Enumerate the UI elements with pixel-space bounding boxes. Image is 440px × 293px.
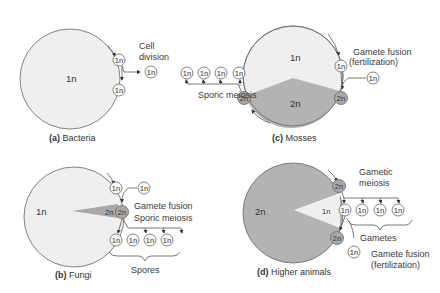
svg-text:2n: 2n [105, 208, 113, 217]
panel-bacteria: 1n 1n 1n 1n Cell division (a) Bacteria [20, 29, 169, 143]
gametes-label: Gametes [360, 233, 397, 243]
svg-text:1n: 1n [200, 69, 208, 78]
panel-higher-animals: 2n 1n 2n 1n 1n 1n 1n 2n 1n Gametes Gamet… [243, 163, 430, 277]
svg-text:1n: 1n [112, 184, 120, 193]
svg-text:1n: 1n [341, 206, 349, 215]
svg-text:1n: 1n [147, 68, 155, 77]
svg-text:1n: 1n [337, 62, 345, 71]
svg-text:1n: 1n [322, 207, 330, 216]
svg-text:1n: 1n [115, 56, 123, 65]
sporic-meiosis-label: Sporic meiosis [134, 213, 193, 223]
panel-fungi: 1n 2n 1n 1n 2n 1n 1n 1n 1n Spores Gamete… [24, 167, 193, 280]
svg-text:(fertilization): (fertilization) [349, 57, 398, 67]
svg-text:2n: 2n [118, 208, 126, 217]
svg-text:division: division [139, 52, 169, 62]
svg-text:1n: 1n [358, 206, 366, 215]
gamete-fusion-label: Gamete fusion [371, 249, 430, 259]
svg-text:1n: 1n [115, 86, 123, 95]
svg-text:1n: 1n [376, 206, 384, 215]
spores-brace [109, 252, 180, 261]
svg-text:1n: 1n [235, 69, 243, 78]
cell-division-label: Cell [139, 41, 155, 51]
caption-bacteria: (a) Bacteria [49, 133, 96, 143]
spores-label: Spores [131, 265, 160, 275]
svg-text:1n: 1n [129, 236, 137, 245]
svg-text:(fertilization): (fertilization) [371, 260, 420, 270]
svg-text:1n: 1n [217, 69, 225, 78]
svg-text:1n: 1n [290, 52, 301, 63]
gametes-brace [348, 220, 412, 230]
svg-text:1n: 1n [394, 206, 402, 215]
svg-text:2n: 2n [333, 234, 341, 243]
svg-text:1n: 1n [112, 236, 120, 245]
svg-text:1n: 1n [146, 236, 154, 245]
caption-higher-animals: (d) Higher animals [257, 267, 332, 277]
caption-mosses: (c) Mosses [272, 133, 317, 143]
svg-text:meiosis: meiosis [359, 178, 390, 188]
gamete-fusion-label: Gamete fusion [353, 47, 412, 57]
svg-text:2n: 2n [290, 98, 301, 109]
svg-text:1n: 1n [140, 184, 148, 193]
life-cycle-diagram: 1n 1n 1n 1n Cell division (a) Bacteria 1… [0, 0, 440, 293]
gamete-fusion-label: Gamete fusion [134, 201, 193, 211]
sporic-meiosis-label: Sporic meiosis [198, 90, 257, 100]
svg-text:1n: 1n [369, 74, 377, 83]
svg-text:2n: 2n [335, 182, 343, 191]
svg-text:1n: 1n [163, 236, 171, 245]
main-ploidy-label: 1n [66, 73, 77, 84]
gametic-meiosis-label: Gametic [359, 167, 393, 177]
caption-fungi: (b) Fungi [55, 270, 92, 280]
svg-text:1n: 1n [183, 69, 191, 78]
svg-text:2n: 2n [255, 206, 266, 217]
panel-mosses: 1n 2n 1n 1n 1n 1n 2n 1n 1n 2n Sporic mei… [181, 26, 412, 143]
svg-text:1n: 1n [36, 206, 47, 217]
svg-text:1n: 1n [350, 248, 358, 257]
svg-text:2n: 2n [337, 94, 345, 103]
